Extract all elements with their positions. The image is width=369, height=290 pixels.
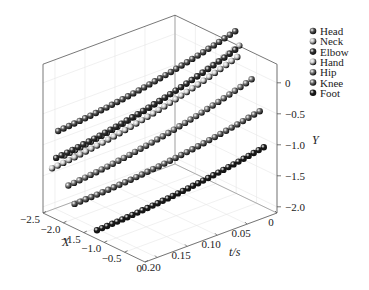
data-point (121, 155, 127, 161)
data-point (206, 137, 212, 143)
data-point (194, 73, 200, 79)
data-point (140, 108, 146, 114)
data-point (193, 113, 199, 119)
t-tick-label: 0.20 (141, 261, 161, 273)
data-point (223, 62, 229, 68)
data-point (234, 121, 240, 127)
data-point (156, 107, 162, 113)
x-tick-label: −2.5 (20, 213, 40, 225)
data-point (195, 143, 201, 149)
y-tick-label: −0.5 (285, 108, 305, 120)
data-point (156, 163, 162, 169)
data-point (216, 39, 222, 45)
legend-marker (310, 28, 317, 35)
data-point (223, 128, 229, 134)
data-point (113, 124, 119, 130)
legend-item-foot: Foot (310, 87, 340, 99)
data-point (182, 120, 188, 126)
data-point (71, 180, 77, 186)
data-point (204, 106, 210, 112)
data-point (88, 194, 94, 200)
data-point (136, 87, 142, 93)
data-point (195, 81, 201, 87)
data-point (126, 152, 132, 158)
data-point (146, 81, 152, 87)
data-point (116, 182, 122, 188)
y-tick-label: −2.0 (285, 201, 305, 213)
data-point (55, 162, 61, 168)
y-tick-label: −1.5 (285, 170, 305, 182)
legend-marker (310, 69, 317, 76)
legend-marker (310, 79, 317, 86)
data-point (137, 146, 143, 152)
x-tick-label: −1.0 (81, 242, 101, 254)
data-point (71, 154, 77, 160)
data-point (183, 80, 189, 86)
data-point (139, 171, 145, 177)
data-point (248, 76, 254, 82)
data-point (96, 133, 102, 139)
data-point (145, 104, 151, 110)
data-point (178, 84, 184, 90)
legend-marker (310, 59, 317, 66)
data-point (178, 152, 184, 158)
data-point (205, 66, 211, 72)
data-point (234, 54, 240, 60)
data-point (161, 160, 167, 166)
data-point (176, 123, 182, 129)
data-point (65, 182, 71, 188)
data-point (83, 148, 89, 154)
data-point (189, 77, 195, 83)
y-tick-label: 0 (285, 77, 291, 89)
data-point (215, 99, 221, 105)
data-point (99, 166, 105, 172)
data-point (107, 127, 113, 133)
data-point (124, 117, 130, 123)
data-point (128, 177, 134, 183)
data-point (227, 51, 233, 57)
data-point (115, 158, 121, 164)
t-tick-label: 0.15 (171, 249, 191, 261)
data-point (94, 142, 100, 148)
data-point (128, 124, 134, 130)
legend-marker (310, 48, 317, 55)
data-point (257, 108, 263, 114)
data-point (200, 70, 206, 76)
data-point (173, 66, 179, 72)
data-point (105, 187, 111, 193)
data-point (210, 62, 216, 68)
data-point (105, 136, 111, 142)
data-point (111, 133, 117, 139)
data-point (189, 85, 195, 91)
data-point (206, 74, 212, 80)
data-point (144, 114, 150, 120)
data-point (110, 161, 116, 167)
data-point (103, 104, 109, 110)
data-point (132, 149, 138, 155)
data-point (88, 145, 94, 151)
data-point (150, 110, 156, 116)
data-point (149, 139, 155, 145)
data-point (221, 35, 227, 41)
t-tick-label: 0 (268, 216, 274, 228)
data-point (144, 169, 150, 175)
data-point (80, 141, 86, 147)
data-point (93, 169, 99, 175)
data-point (221, 95, 227, 101)
data-point (139, 117, 145, 123)
data-point (200, 140, 206, 146)
data-point (245, 115, 251, 121)
data-point (77, 198, 83, 204)
data-point (156, 98, 162, 104)
data-point (75, 144, 81, 150)
data-point (195, 52, 201, 58)
data-point (229, 58, 235, 64)
data-point (49, 165, 55, 171)
data-point (211, 42, 217, 48)
data-point (157, 75, 163, 81)
legend: HeadNeckElbowHandHipKneeFoot (310, 25, 349, 99)
data-point (227, 32, 233, 38)
data-point (172, 155, 178, 161)
data-point (172, 96, 178, 102)
data-point (60, 160, 66, 166)
